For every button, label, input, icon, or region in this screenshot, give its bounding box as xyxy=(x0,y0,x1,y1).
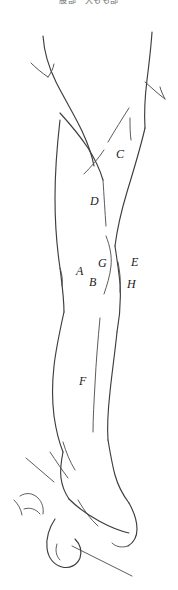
outline-big-toe xyxy=(47,519,81,568)
region-label-h: H xyxy=(127,278,136,290)
toe-small-right xyxy=(112,543,128,547)
region-label-b: B xyxy=(89,276,96,288)
branch-upper-left xyxy=(31,63,48,77)
crease-ankle-diagonal-b xyxy=(50,452,68,478)
limb-line-drawing xyxy=(0,0,178,590)
outline-leg-right-contour xyxy=(115,128,145,246)
outline-knee-right xyxy=(115,246,120,332)
region-label-e: E xyxy=(131,256,138,268)
crease-medial-diagonal xyxy=(84,150,104,174)
outline-thigh-inner-medial xyxy=(60,113,103,180)
outline-ankle-left xyxy=(61,452,69,499)
outline-foot-lateral-edge xyxy=(128,503,137,546)
region-label-d: D xyxy=(90,195,99,207)
branch-upper-right xyxy=(145,82,165,99)
crease-shin-f xyxy=(93,318,100,432)
pointer-line-ground xyxy=(72,546,132,576)
crease-ankle-tendon xyxy=(63,442,75,470)
crease-instep xyxy=(78,500,98,526)
outline-foot-dorsum xyxy=(69,499,129,533)
outline-calf-right xyxy=(108,332,117,440)
region-label-c: C xyxy=(116,148,124,160)
crease-anterior-upper xyxy=(103,180,106,226)
toe-curve-second xyxy=(20,494,43,514)
toe-curve-third xyxy=(24,508,40,514)
outline-thigh-right-outer xyxy=(145,32,152,128)
outline-calf-left xyxy=(53,312,65,452)
region-label-g: G xyxy=(98,257,107,269)
crease-ankle-diagonal-a xyxy=(26,458,54,482)
toe-curve-fourth xyxy=(14,500,22,515)
crease-region-c-upper xyxy=(108,108,129,142)
anatomical-figure: 股部 大もも部 xyxy=(0,0,178,590)
tick-mark-near-c xyxy=(130,118,131,140)
crease-big-toe-nail xyxy=(56,544,60,560)
region-label-a: A xyxy=(76,265,83,277)
region-label-f: F xyxy=(79,375,86,387)
outline-ankle-right xyxy=(108,440,129,503)
